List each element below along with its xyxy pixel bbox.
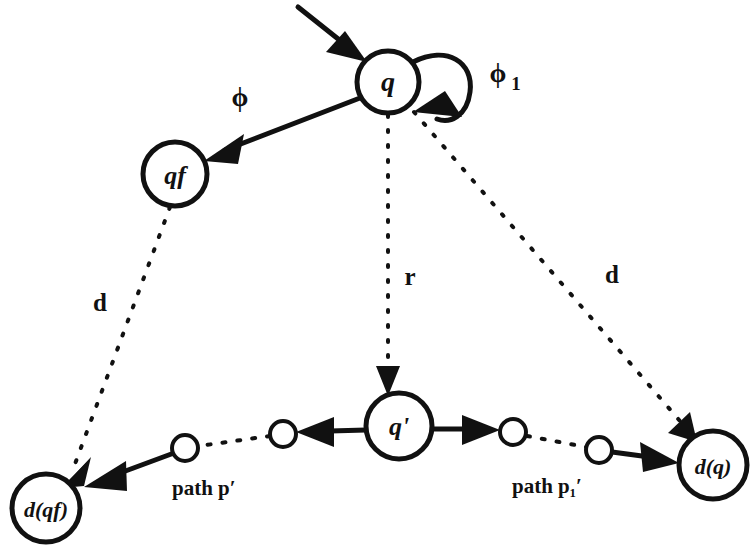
edge-q-to-qprime <box>376 115 400 396</box>
node-dq[interactable]: d(q) <box>679 431 747 499</box>
node-qf-label: qf <box>164 161 188 190</box>
diagram-canvas: q qf q' d(qf) d(q) ϕ ϕ 1 d r d path p′ <box>0 0 751 551</box>
edge-q-to-dq <box>414 112 697 442</box>
edge-qf-to-dqf <box>62 207 170 488</box>
edge-start-arrow <box>298 7 367 62</box>
node-dq-label: d(q) <box>695 454 732 479</box>
edge-qprime-to-p2 <box>296 417 366 447</box>
edge-label-phi: ϕ <box>232 82 249 112</box>
edge-label-d-right: d <box>605 261 619 288</box>
small-node-p2[interactable] <box>270 421 296 447</box>
edge-p1-to-dqf-arrowhead <box>84 461 127 491</box>
edge-p2-to-p1-line <box>199 436 270 446</box>
node-dqf-label: d(qf) <box>24 497 68 522</box>
edge-p4-to-dq-arrowhead <box>640 442 679 472</box>
node-q[interactable]: q <box>357 51 419 113</box>
edge-p2-to-p1 <box>199 436 270 446</box>
edge-q-self-loop <box>413 55 470 120</box>
edge-qf-to-dqf-line <box>72 207 170 472</box>
small-node-p1[interactable] <box>172 435 198 461</box>
edge-qprime-to-p2-line <box>330 430 366 431</box>
small-node-p3[interactable] <box>500 419 526 445</box>
edge-q-to-qf <box>204 98 360 164</box>
node-qprime-label: q' <box>389 412 409 441</box>
edge-q-self-loop-arrowhead <box>413 91 462 117</box>
node-dqf[interactable]: d(qf) <box>12 474 80 542</box>
path-label-p1-prime: path p₁′ <box>512 474 582 498</box>
edge-label-phi1-group: ϕ 1 <box>490 58 521 94</box>
edge-label-phi1: ϕ <box>490 58 507 88</box>
small-node-p4[interactable] <box>586 437 612 463</box>
edge-q-to-qf-arrowhead <box>204 134 244 164</box>
edge-p3-to-p4 <box>527 436 586 447</box>
edge-qprime-to-p3 <box>432 415 500 445</box>
diagram-svg: q qf q' d(qf) d(q) ϕ ϕ 1 d r d path p′ <box>0 0 751 551</box>
node-qprime[interactable]: q' <box>366 393 432 459</box>
edge-p1-to-dqf-line <box>120 453 174 473</box>
edge-label-phi1-subscript: 1 <box>511 73 521 94</box>
edge-p1-to-dqf <box>84 453 174 491</box>
edge-qprime-to-p3-arrowhead <box>462 415 500 445</box>
node-q-label: q <box>381 66 395 97</box>
edge-p4-to-dq-line <box>612 452 642 456</box>
edge-label-d-left: d <box>93 289 107 316</box>
edge-q-to-dq-line <box>414 112 686 428</box>
node-qf[interactable]: qf <box>143 142 207 206</box>
path-label-p-prime: path p′ <box>172 476 236 500</box>
edge-p4-to-dq <box>612 442 679 472</box>
edge-qprime-to-p2-arrowhead <box>296 417 334 447</box>
edge-p3-to-p4-line <box>527 436 586 447</box>
edge-label-r: r <box>404 263 415 290</box>
